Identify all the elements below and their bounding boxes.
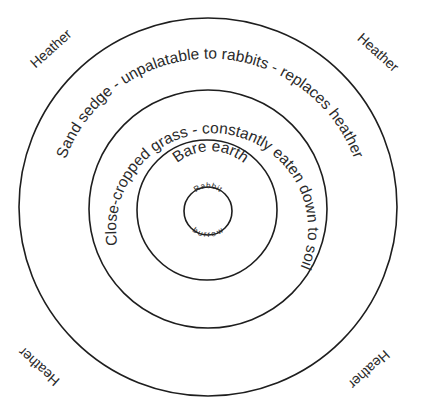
heather-top-left-label: Heather [27,25,75,70]
burrow-label: burrow [191,225,225,239]
bare-earth-ring [137,140,277,280]
heather-top-right-label: Heather [354,30,402,75]
burrow-ring [184,187,232,235]
rabbit-burrow-zones-diagram: Sand sedge - unpalatable to rabbits - re… [0,0,421,416]
heather-bottom-right-label: Heather [345,347,393,392]
heather-bottom-left-label: Heather [15,344,63,389]
close-cropped-grass-label: Close-cropped grass - constantly eaten d… [102,119,322,272]
outer-ring [19,18,397,396]
rabbit-label: Rabbit [192,181,224,194]
